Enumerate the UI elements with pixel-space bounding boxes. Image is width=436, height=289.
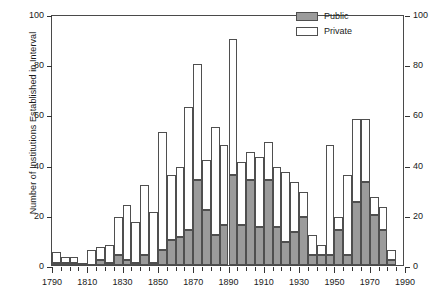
x-tick-1860 <box>176 267 177 271</box>
x-tick-1965 <box>361 267 362 271</box>
bar-segment-private-1980 <box>387 250 396 260</box>
bar-segment-private-1885 <box>220 145 229 225</box>
bar-1920 <box>281 172 290 265</box>
bar-1950 <box>334 217 343 265</box>
legend-item-public: Public <box>296 10 352 23</box>
bar-segment-private-1910 <box>264 142 273 180</box>
bar-1850 <box>158 132 167 265</box>
bar-segment-private-1930 <box>299 192 308 217</box>
bar-segment-private-1960 <box>352 119 361 202</box>
y-tick-left-40 <box>47 167 52 168</box>
x-tick-1955 <box>343 267 344 271</box>
x-tick-label-1870: 1870 <box>173 277 213 287</box>
bar-segment-public-1875 <box>202 210 211 265</box>
y-tick-right-80 <box>405 66 410 67</box>
bar-segment-private-1820 <box>105 245 114 263</box>
x-tick-1910 <box>264 267 265 273</box>
bar-segment-public-1980 <box>387 260 396 265</box>
bar-segment-private-1815 <box>96 247 105 260</box>
bar-segment-public-1905 <box>255 227 264 265</box>
x-tick-1810 <box>87 267 88 273</box>
y-tick-label-left-80: 80 <box>4 61 44 70</box>
plot-area: 0020204040606080801001001790181018301850… <box>51 15 404 266</box>
legend-label-public: Public <box>324 10 349 23</box>
bar-segment-private-1835 <box>131 222 140 262</box>
bar-1925 <box>290 182 299 265</box>
bar-segment-private-1900 <box>246 152 255 180</box>
bar-segment-private-1810 <box>87 250 96 265</box>
bar-segment-private-1965 <box>361 119 370 182</box>
bar-series-container <box>52 16 403 265</box>
x-tick-1805 <box>78 267 79 271</box>
legend-item-private: Private <box>296 25 352 38</box>
x-tick-1880 <box>211 267 212 271</box>
chart-figure: Number of Institutions Established in In… <box>0 0 436 289</box>
x-tick-1925 <box>290 267 291 271</box>
bar-segment-public-1925 <box>290 232 299 265</box>
x-tick-1950 <box>334 267 335 273</box>
x-tick-1795 <box>61 267 62 271</box>
bar-segment-private-1855 <box>167 175 176 240</box>
x-tick-1920 <box>281 267 282 271</box>
x-tick-label-1990: 1990 <box>385 277 425 287</box>
bar-1975 <box>379 207 388 265</box>
x-tick-1895 <box>237 267 238 271</box>
bar-segment-private-1825 <box>114 217 123 255</box>
bar-1840 <box>140 185 149 265</box>
bar-segment-private-1970 <box>370 197 379 215</box>
bar-1865 <box>184 107 193 265</box>
bar-1825 <box>114 217 123 265</box>
bar-1955 <box>343 175 352 265</box>
x-tick-1985 <box>396 267 397 271</box>
private-swatch-icon <box>296 27 318 36</box>
y-tick-label-right-20: 20 <box>413 212 436 221</box>
bar-segment-private-1895 <box>237 162 246 225</box>
bar-segment-private-1805 <box>78 263 87 266</box>
bar-segment-private-1870 <box>193 64 202 179</box>
bar-1960 <box>352 119 361 265</box>
bar-1880 <box>211 127 220 265</box>
x-tick-1885 <box>220 267 221 271</box>
chart-legend: Public Private <box>296 10 352 40</box>
bar-1935 <box>308 235 317 265</box>
y-tick-label-right-100: 100 <box>413 11 436 20</box>
x-tick-1890 <box>229 267 230 273</box>
bar-segment-private-1905 <box>255 157 264 227</box>
y-tick-left-60 <box>47 116 52 117</box>
y-tick-left-20 <box>47 217 52 218</box>
x-tick-1900 <box>246 267 247 271</box>
x-tick-1840 <box>140 267 141 271</box>
bar-1810 <box>87 250 96 265</box>
y-tick-label-right-40: 40 <box>413 162 436 171</box>
x-tick-1915 <box>273 267 274 271</box>
bar-segment-private-1845 <box>149 212 158 262</box>
bar-segment-public-1890 <box>229 175 238 265</box>
bar-segment-public-1835 <box>131 263 140 266</box>
bar-segment-public-1900 <box>246 180 255 265</box>
bar-1965 <box>361 119 370 265</box>
bar-segment-public-1965 <box>361 182 370 265</box>
bar-1805 <box>78 263 87 266</box>
bar-segment-private-1955 <box>343 175 352 255</box>
bar-segment-public-1885 <box>220 225 229 265</box>
bar-1885 <box>220 145 229 265</box>
x-tick-label-1910: 1910 <box>244 277 284 287</box>
bar-segment-private-1925 <box>290 182 299 232</box>
bar-segment-private-1920 <box>281 172 290 242</box>
x-tick-label-1970: 1970 <box>350 277 390 287</box>
bar-segment-private-1790 <box>52 252 61 262</box>
x-tick-1935 <box>308 267 309 271</box>
bar-1855 <box>167 175 176 265</box>
bar-segment-public-1895 <box>237 225 246 265</box>
bar-1980 <box>387 250 396 265</box>
bar-1910 <box>264 142 273 265</box>
x-tick-1820 <box>105 267 106 271</box>
bar-segment-public-1945 <box>326 255 335 265</box>
bar-1900 <box>246 152 255 265</box>
bar-1845 <box>149 212 158 265</box>
x-tick-1800 <box>70 267 71 271</box>
bar-segment-private-1865 <box>184 107 193 230</box>
bar-segment-public-1825 <box>114 255 123 265</box>
bar-1895 <box>237 162 246 265</box>
bar-segment-public-1795 <box>61 263 70 266</box>
